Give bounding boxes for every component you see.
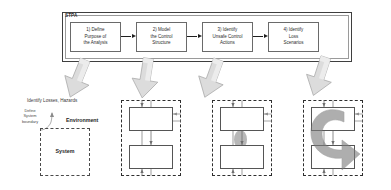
arrow-head-icon xyxy=(198,34,202,38)
panel1-environment-label: Environment xyxy=(66,117,98,123)
step-box-2[interactable]: 2) Model the Control Structure xyxy=(136,22,187,52)
arrow-step1-to-step2 xyxy=(121,35,136,38)
step-2-line-2: the Control xyxy=(150,34,172,39)
block-arrow-step2-to-panel2 xyxy=(124,58,164,102)
step-box-1[interactable]: 1) Define Purpose of the Analysis xyxy=(70,22,121,52)
panel3-controller-box xyxy=(220,107,264,131)
block-arrow-step4-to-panel4 xyxy=(298,56,338,100)
panel1-system-label: System xyxy=(40,148,90,154)
panel1-losses-hazards-label: Identify Losses, Hazards xyxy=(27,98,77,103)
panel3-controlled-process-box xyxy=(220,145,264,169)
step-3-line-3: Actions xyxy=(220,40,235,45)
step-2-line-1: 2) Model xyxy=(153,27,171,32)
step-1-line-2: Purpose of xyxy=(85,34,107,39)
arrow-step2-to-step3 xyxy=(187,35,202,38)
figure-canvas: STPA 1) Define Purpose of the Analysis 2… xyxy=(0,0,391,190)
step-4-line-1: 4) Identify xyxy=(284,27,304,32)
panel4-controller-box xyxy=(311,107,355,131)
block-arrow-step1-to-panel1 xyxy=(56,58,96,102)
arrow-head-icon xyxy=(264,34,268,38)
step-3-line-2: Unsafe Control xyxy=(212,34,242,39)
arrow-head-icon xyxy=(132,34,136,38)
step-4-line-2: Loss xyxy=(289,34,299,39)
step-3-line-1: 3) Identify xyxy=(218,27,238,32)
boundary-line-3: boundary xyxy=(22,119,38,124)
arrow-step3-to-step4 xyxy=(253,35,268,38)
step-1-line-3: the Analysis xyxy=(83,40,107,45)
control-structure-panel-2 xyxy=(121,100,181,176)
arrow-shaft xyxy=(121,36,131,37)
panel2-controlled-process-box xyxy=(129,145,173,169)
step-4-line-3: Scenarios xyxy=(283,40,303,45)
control-structure-panel-3 xyxy=(212,100,272,176)
arrow-shaft xyxy=(253,36,263,37)
arrow-shaft xyxy=(187,36,197,37)
step-2-line-3: Structure xyxy=(152,40,170,45)
boundary-line-1: Define xyxy=(24,108,35,113)
panel2-controller-box xyxy=(129,107,173,131)
boundary-line-2: System xyxy=(24,113,37,118)
control-structure-panel-4 xyxy=(303,100,363,176)
panel4-controlled-process-box xyxy=(311,145,355,169)
step-box-3[interactable]: 3) Identify Unsafe Control Actions xyxy=(202,22,253,52)
stpa-label: STPA xyxy=(65,14,77,19)
block-arrow-step3-to-panel3 xyxy=(190,58,230,102)
step-box-4[interactable]: 4) Identify Loss Scenarios xyxy=(268,22,319,52)
step-1-line-1: 1) Define xyxy=(86,27,104,32)
